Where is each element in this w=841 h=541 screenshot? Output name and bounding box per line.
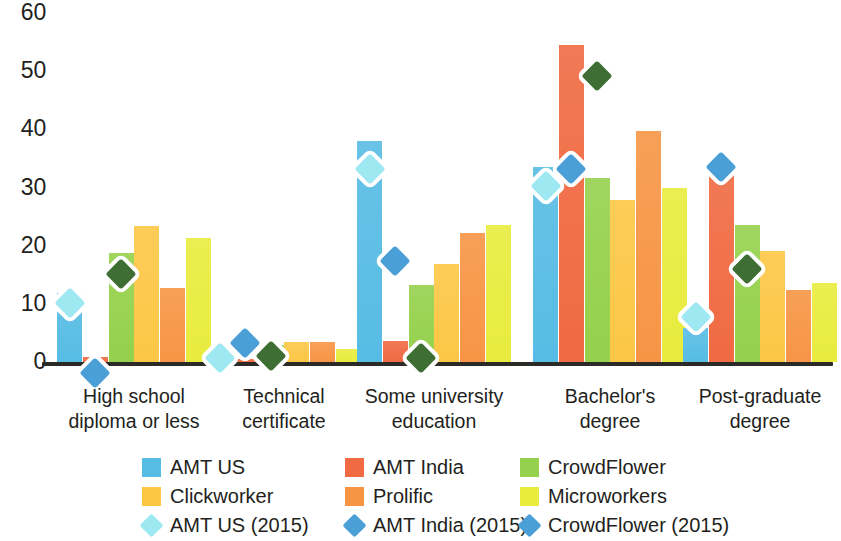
legend-amt-india[interactable]: AMT India bbox=[345, 456, 464, 478]
bar bbox=[186, 238, 211, 362]
legend-label: Prolific bbox=[373, 485, 433, 507]
bar bbox=[460, 233, 485, 362]
legend-amt-us[interactable]: AMT US bbox=[142, 456, 245, 478]
x-axis-category-labels: High schooldiploma or lessTechnicalcerti… bbox=[0, 384, 833, 446]
bar bbox=[434, 264, 459, 362]
bar bbox=[233, 359, 258, 362]
bar bbox=[812, 283, 837, 362]
chart-legend: AMT USAMT IndiaCrowdFlowerClickworkerPro… bbox=[142, 456, 832, 538]
legend-label: CrowdFlower bbox=[548, 456, 666, 478]
bar bbox=[134, 226, 159, 362]
legend-prolific[interactable]: Prolific bbox=[345, 485, 433, 507]
legend-swatch-icon bbox=[142, 487, 161, 506]
bar bbox=[709, 174, 734, 362]
bar bbox=[610, 200, 635, 362]
legend-label: Clickworker bbox=[170, 485, 273, 507]
legend-crowdflower[interactable]: CrowdFlower bbox=[520, 456, 666, 478]
bar bbox=[160, 288, 185, 362]
legend-label: AMT India (2015) bbox=[373, 514, 527, 536]
legend-swatch-icon bbox=[345, 458, 364, 477]
legend-swatch-icon bbox=[520, 458, 539, 477]
bar bbox=[786, 290, 811, 362]
x-label-line: Post-graduate bbox=[655, 384, 841, 409]
marker-diamond bbox=[582, 61, 613, 92]
legend-label: Microworkers bbox=[548, 485, 667, 507]
x-label-group-5: Post-graduatedegree bbox=[655, 384, 841, 434]
legend-clickworker[interactable]: Clickworker bbox=[142, 485, 273, 507]
legend-diamond-icon bbox=[342, 513, 366, 537]
bar bbox=[636, 131, 661, 363]
legend-swatch-icon bbox=[142, 458, 161, 477]
bar bbox=[735, 225, 760, 362]
legend-label: CrowdFlower (2015) bbox=[548, 514, 729, 536]
bars-layer bbox=[0, 0, 833, 366]
legend-diamond-icon bbox=[139, 513, 163, 537]
legend-label: AMT US (2015) bbox=[170, 514, 309, 536]
legend-amt-us-2015[interactable]: AMT US (2015) bbox=[142, 514, 309, 536]
marker-diamond bbox=[380, 245, 411, 276]
legend-label: AMT US bbox=[170, 456, 245, 478]
plot-area: 6050403020100 bbox=[0, 0, 833, 380]
legend-crowdflower-2015[interactable]: CrowdFlower (2015) bbox=[520, 514, 729, 536]
legend-diamond-icon bbox=[517, 513, 541, 537]
bar bbox=[585, 178, 610, 362]
legend-swatch-icon bbox=[345, 487, 364, 506]
bar bbox=[559, 45, 584, 362]
legend-label: AMT India bbox=[373, 456, 464, 478]
x-label-line: degree bbox=[655, 409, 841, 434]
bar bbox=[284, 342, 309, 362]
bar bbox=[383, 341, 408, 362]
legend-microworkers[interactable]: Microworkers bbox=[520, 485, 667, 507]
legend-amt-india-2015[interactable]: AMT India (2015) bbox=[345, 514, 527, 536]
bar bbox=[486, 225, 511, 362]
bar bbox=[310, 342, 335, 362]
legend-swatch-icon bbox=[520, 487, 539, 506]
bar bbox=[683, 328, 708, 362]
bar bbox=[760, 251, 785, 362]
